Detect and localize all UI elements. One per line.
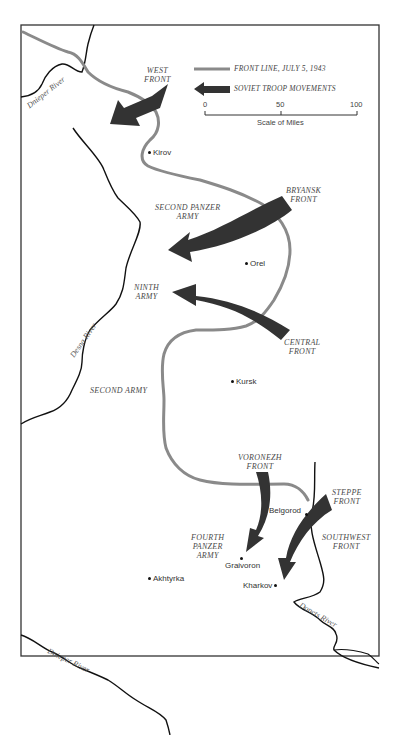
label-central-front: CENTRAL FRONT (284, 338, 320, 356)
legend-front-line-label: FRONT LINE, JULY 5, 1943 (234, 64, 326, 73)
scale-tick-0: 0 (203, 100, 207, 109)
map-frame (21, 25, 379, 656)
front-line (23, 32, 308, 500)
desna-river (21, 128, 140, 424)
legend-arrow-swatch (194, 82, 230, 96)
city-kharkov: Kharkov (243, 581, 279, 590)
city-dot-icon (245, 262, 248, 265)
dnieper-river-south (21, 635, 170, 735)
label-second-army: SECOND ARMY (90, 386, 147, 395)
scale-bar (205, 111, 357, 115)
label-west-front: WEST FRONT (144, 66, 171, 84)
city-dot-icon (231, 380, 234, 383)
label-fourth-panzer-army: FOURTH PANZER ARMY (191, 533, 224, 560)
city-kirov: Kirov (146, 148, 171, 157)
label-ninth-army: NINTH ARMY (134, 283, 159, 301)
label-southwest-front: SOUTHWEST FRONT (322, 533, 370, 551)
city-akhtyrka: Akhtyrka (146, 574, 184, 583)
city-dot-icon (148, 151, 151, 154)
label-second-panzer-army: SECOND PANZER ARMY (155, 203, 220, 221)
scale-caption: Scale of Miles (257, 118, 304, 127)
label-voronezh-front: VORONEZH FRONT (238, 453, 282, 471)
city-kursk: Kursk (229, 377, 256, 386)
city-dot-icon (274, 584, 277, 587)
label-steppe-front: STEPPE FRONT (332, 488, 362, 506)
city-dot-icon (148, 577, 151, 580)
city-orel: Orel (243, 259, 265, 268)
scale-tick-100: 100 (350, 100, 363, 109)
city-dot-icon (240, 557, 243, 560)
label-bryansk-front: BRYANSK FRONT (286, 186, 321, 204)
city-belgorod: Belgorod (269, 506, 308, 515)
city-graivoron: Graivoron (225, 561, 260, 570)
legend-troop-movements-label: SOVIET TROOP MOVEMENTS (234, 84, 336, 93)
map-canvas (0, 0, 401, 735)
scale-tick-50: 50 (276, 100, 284, 109)
